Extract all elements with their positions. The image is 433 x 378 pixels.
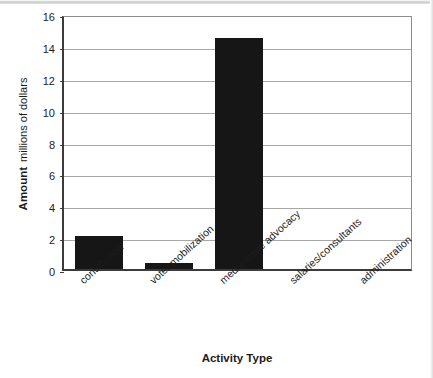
scan-edge-top — [0, 0, 433, 4]
y-axis-tick — [60, 49, 64, 50]
y-axis-tick-label: 10 — [43, 107, 55, 119]
y-axis-tick-label: 8 — [49, 139, 55, 151]
y-axis-tick — [60, 272, 64, 273]
y-axis-tick — [60, 208, 64, 209]
y-axis-tick-label: 14 — [43, 43, 55, 55]
y-axis-tick-label: 4 — [49, 202, 55, 214]
y-axis-tick — [60, 240, 64, 241]
plot-area: 0246810121416 — [62, 16, 412, 271]
y-axis-tick-label: 16 — [43, 11, 55, 23]
y-axis-tick-label: 2 — [49, 234, 55, 246]
y-axis-tick — [60, 81, 64, 82]
y-axis-tick — [60, 113, 64, 114]
x-axis-title: Activity Type — [62, 352, 412, 364]
y-axis-tick-label: 12 — [43, 75, 55, 87]
y-axis-tick-label: 0 — [49, 266, 55, 278]
y-axis-tick-label: 6 — [49, 170, 55, 182]
y-axis-title-sub: millions of dollars — [17, 77, 29, 161]
chart-page: Amount millions of dollars 0246810121416… — [0, 0, 433, 378]
bar — [215, 38, 263, 269]
y-axis-title: Amount millions of dollars — [6, 16, 40, 271]
y-axis-tick — [60, 17, 64, 18]
y-axis-tick — [60, 145, 64, 146]
y-axis-title-main: Amount — [17, 166, 29, 209]
y-axis-tick — [60, 176, 64, 177]
